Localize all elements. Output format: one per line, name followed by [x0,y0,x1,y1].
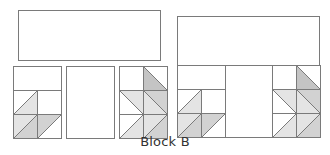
quilt-cell [120,91,144,115]
diagram-caption: Block B [0,134,330,149]
quilt-cell [120,67,144,91]
quilt-cell [178,90,202,114]
quilt-cell [144,67,168,91]
left-unit-separate [14,67,62,139]
quilt-cell [38,91,62,115]
quilt-cell [14,67,62,91]
quilt-cell [144,91,168,115]
plain-square [14,67,62,91]
top-band-piece [19,11,161,61]
quilt-cell [14,91,38,115]
assembled-block-group [177,17,321,138]
plain-square [120,67,144,91]
plain-square [38,91,62,115]
quilt-cell [273,90,297,114]
plain-square [202,90,226,114]
right-unit-separate [120,67,168,139]
separate-pieces-group [14,11,168,139]
block-b-diagram [0,0,330,155]
quilt-cell [297,66,321,90]
plain-square [178,66,226,90]
quilt-cell [273,66,297,90]
quilt-cell [297,90,321,114]
assembled-center-rectangle [226,66,273,138]
right-unit-assembled [273,66,321,138]
quilt-cell [178,66,226,90]
center-rectangle-piece [67,67,115,139]
left-unit-assembled [178,66,226,138]
quilt-cell [202,90,226,114]
plain-square [273,66,297,90]
